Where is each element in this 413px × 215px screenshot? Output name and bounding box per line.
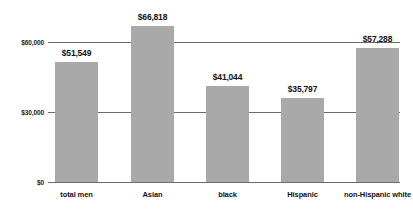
- gridline-60000: [48, 42, 400, 43]
- value-label-black: $41,044: [213, 72, 242, 82]
- ytick-label-60000: $60,000: [8, 39, 44, 46]
- value-label-hispanic: $35,797: [288, 84, 317, 94]
- plot-area: $60,000 $30,000 $0 $51,549 $66,818 $41,0…: [0, 0, 413, 215]
- category-label-asian: Asian: [143, 190, 163, 199]
- value-label-asian: $66,818: [138, 12, 167, 22]
- bar-total-men: [55, 62, 98, 182]
- value-label-non-hispanic-white: $57,288: [363, 34, 392, 44]
- category-label-black: black: [218, 190, 237, 199]
- ytick-label-0: $0: [8, 179, 44, 186]
- bar-asian: [131, 26, 174, 182]
- category-label-non-hispanic-white: non-Hispanic white: [344, 190, 411, 199]
- category-label-hispanic: Hispanic: [287, 190, 317, 199]
- bar-hispanic: [281, 98, 324, 182]
- category-label-total-men: total men: [60, 190, 92, 199]
- bar-chart: $60,000 $30,000 $0 $51,549 $66,818 $41,0…: [0, 0, 413, 215]
- ytick-label-30000: $30,000: [8, 109, 44, 116]
- bar-black: [206, 86, 249, 182]
- value-label-total-men: $51,549: [62, 48, 91, 58]
- bar-non-hispanic-white: [356, 48, 399, 182]
- axis-baseline: [48, 182, 400, 183]
